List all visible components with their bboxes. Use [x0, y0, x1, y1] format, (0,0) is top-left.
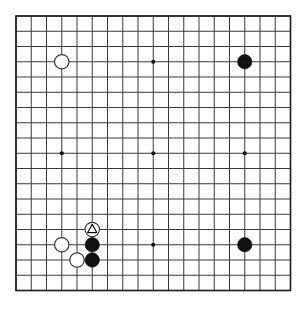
- stone-white[interactable]: [55, 55, 69, 69]
- star-point: [151, 243, 155, 247]
- stone-black[interactable]: [238, 55, 252, 69]
- goban[interactable]: [0, 0, 302, 310]
- star-point: [151, 60, 155, 64]
- stone-disc[interactable]: [85, 253, 99, 267]
- stone-white[interactable]: [55, 238, 69, 252]
- star-point: [60, 151, 64, 155]
- go-board-diagram: [0, 0, 302, 310]
- stone-white[interactable]: [85, 222, 99, 236]
- star-point: [243, 151, 247, 155]
- stone-disc[interactable]: [70, 253, 84, 267]
- stone-disc[interactable]: [55, 238, 69, 252]
- stone-disc[interactable]: [85, 238, 99, 252]
- stone-disc[interactable]: [238, 238, 252, 252]
- stone-white[interactable]: [70, 253, 84, 267]
- stone-black[interactable]: [85, 238, 99, 252]
- stone-disc[interactable]: [55, 55, 69, 69]
- stone-disc[interactable]: [238, 55, 252, 69]
- stone-black[interactable]: [238, 238, 252, 252]
- stone-black[interactable]: [85, 253, 99, 267]
- board-canvas[interactable]: [0, 0, 302, 310]
- star-point: [151, 151, 155, 155]
